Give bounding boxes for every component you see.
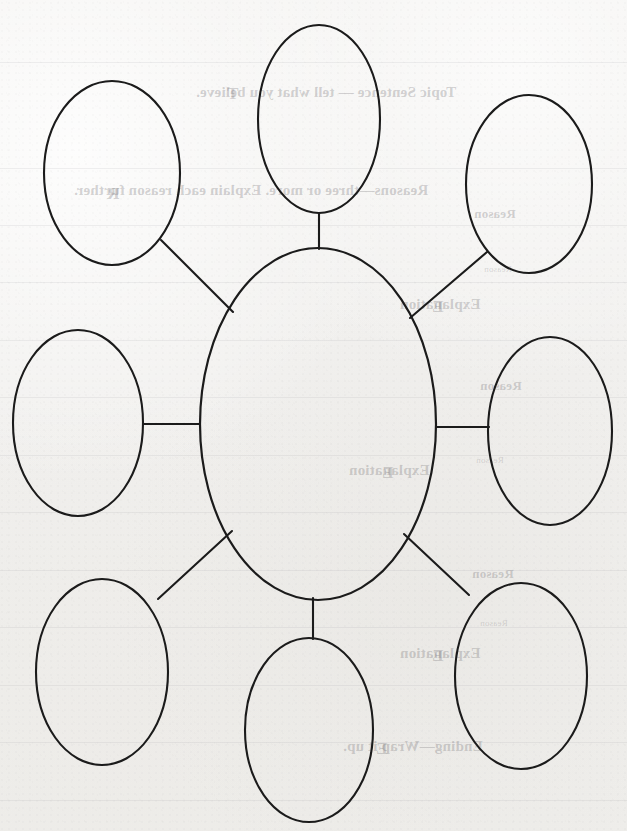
connector-bottom-right bbox=[404, 534, 469, 595]
satellite-ellipse-bottom-right[interactable] bbox=[455, 583, 587, 769]
satellite-ellipse-left[interactable] bbox=[13, 330, 143, 516]
satellite-ellipse-bottom-left[interactable] bbox=[36, 579, 168, 765]
connector-top-right bbox=[410, 252, 487, 318]
scanned-worksheet-page: Topic Sentence — tell what you believe.R… bbox=[0, 0, 627, 831]
satellite-ellipse-right[interactable] bbox=[488, 337, 612, 525]
spider-web-graphic-organizer bbox=[0, 0, 627, 831]
satellite-ellipse-top-left[interactable] bbox=[44, 81, 180, 265]
satellite-ellipse-top-right[interactable] bbox=[466, 95, 592, 273]
connector-bottom-left bbox=[158, 531, 232, 599]
connector-top-left bbox=[161, 240, 233, 312]
satellite-ellipse-bottom[interactable] bbox=[245, 638, 373, 822]
connector-lines-group bbox=[143, 213, 489, 639]
satellite-ellipses-group bbox=[13, 25, 612, 822]
satellite-ellipse-top[interactable] bbox=[258, 25, 380, 213]
center-ellipse-node[interactable] bbox=[200, 248, 436, 600]
